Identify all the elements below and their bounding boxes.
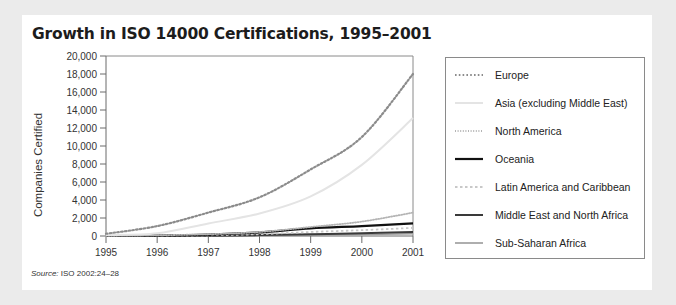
legend-swatch-icon [455,155,483,163]
x-tick-label: 1999 [300,247,323,258]
legend-item: Asia (excluding Middle East) [446,95,627,111]
legend-swatch-icon [455,71,483,79]
y-axis-title: Companies Certified [32,113,44,217]
y-tick-label: 20,000 [66,51,97,62]
x-tick-label: 1996 [146,247,169,258]
y-tick-label: 16,000 [66,87,97,98]
legend-item: Sub-Saharan Africa [446,235,586,251]
y-tick-label: 0 [91,231,97,242]
y-tick-label: 14,000 [66,105,97,116]
legend-swatch-icon [455,239,483,247]
legend-item: Latin America and Caribbean [446,179,630,195]
y-tick-label: 4,000 [72,195,97,206]
legend-label: Oceania [495,153,534,165]
y-tick-label: 12,000 [66,123,97,134]
legend-item: Oceania [446,151,534,167]
legend-label: Europe [495,69,529,81]
legend-label: Sub-Saharan Africa [495,237,586,249]
y-axis: 02,0004,0006,0008,00010,00012,00014,0001… [66,51,106,242]
series-line-asia-excluding-middle-east [106,118,413,235]
legend-swatch-icon [455,211,483,219]
legend-swatch-icon [455,183,483,191]
series-lines [106,74,413,236]
chart-card: Growth in ISO 14000 Certifications, 1995… [22,15,652,290]
legend-label: Middle East and North Africa [495,209,628,221]
y-tick-label: 18,000 [66,69,97,80]
source-note: Source: ISO 2002:24–28 [31,269,119,278]
y-tick-label: 10,000 [66,141,97,152]
y-tick-label: 2,000 [72,213,97,224]
legend-item: Europe [446,67,529,83]
x-tick-label: 2001 [402,247,425,258]
legend: EuropeAsia (excluding Middle East)North … [445,57,645,259]
y-tick-label: 6,000 [72,177,97,188]
legend-label: Latin America and Caribbean [495,181,630,193]
plot-frame [106,56,413,236]
source-label: Source: [31,269,59,278]
y-tick-label: 8,000 [72,159,97,170]
x-tick-label: 2000 [351,247,374,258]
legend-label: North America [495,125,562,137]
x-axis: 1995199619971998199920002001 [95,236,425,258]
legend-item: North America [446,123,562,139]
legend-swatch-icon [455,99,483,107]
series-line-europe [106,74,413,234]
source-text: ISO 2002:24–28 [59,269,120,278]
legend-item: Middle East and North Africa [446,207,628,223]
x-tick-label: 1998 [248,247,271,258]
legend-label: Asia (excluding Middle East) [495,97,627,109]
x-tick-label: 1995 [95,247,118,258]
legend-swatch-icon [455,127,483,135]
x-tick-label: 1997 [197,247,220,258]
